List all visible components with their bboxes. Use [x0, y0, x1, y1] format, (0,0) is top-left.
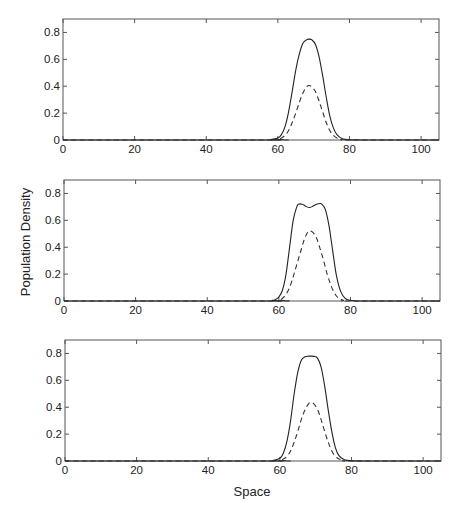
x-tick-label: 40	[200, 143, 213, 155]
y-axis-label: Population Density	[18, 187, 33, 296]
x-tick-label: 80	[344, 304, 357, 316]
x-tick-label: 20	[129, 304, 142, 316]
series-solid-line	[64, 203, 440, 301]
panel-3: 02040608010000.20.40.60.8	[46, 340, 441, 476]
x-axis-label: Space	[234, 484, 271, 499]
y-tick-label: 0.6	[45, 214, 61, 226]
plot-frame	[64, 180, 440, 301]
y-tick-label: 0.4	[44, 80, 61, 92]
x-tick-label: 20	[128, 143, 141, 155]
series-dashed-line	[63, 86, 439, 140]
y-tick-label: 0.8	[44, 26, 60, 38]
y-tick-label: 0.2	[44, 107, 60, 119]
x-tick-label: 60	[273, 464, 286, 476]
series-dashed-line	[64, 231, 440, 301]
series-solid-line	[63, 39, 439, 140]
x-tick-label: 40	[201, 304, 214, 316]
x-tick-label: 80	[343, 143, 356, 155]
y-tick-label: 0.8	[45, 187, 61, 199]
y-tick-label: 0	[55, 295, 61, 307]
x-tick-label: 100	[412, 143, 431, 155]
y-tick-label: 0.8	[46, 347, 62, 359]
x-tick-label: 60	[272, 304, 285, 316]
x-tick-label: 0	[61, 304, 67, 316]
y-tick-label: 0.2	[45, 268, 61, 280]
plot-frame	[63, 19, 439, 140]
x-tick-label: 100	[413, 304, 432, 316]
figure: 02040608010000.20.40.60.802040608010000.…	[0, 0, 458, 507]
y-tick-label: 0.4	[46, 401, 63, 413]
y-tick-label: 0.4	[45, 241, 62, 253]
x-tick-label: 0	[62, 464, 68, 476]
panels: 02040608010000.20.40.60.802040608010000.…	[44, 19, 441, 476]
x-tick-label: 100	[414, 464, 433, 476]
panel-1: 02040608010000.20.40.60.8	[44, 19, 439, 155]
y-tick-label: 0	[56, 455, 62, 467]
y-tick-label: 0.2	[46, 428, 62, 440]
panel-2: 02040608010000.20.40.60.8	[45, 180, 440, 316]
series-dashed-line	[65, 403, 441, 462]
series-solid-line	[65, 356, 441, 461]
x-tick-label: 20	[130, 464, 143, 476]
x-tick-label: 40	[202, 464, 215, 476]
plot-frame	[65, 340, 441, 461]
y-tick-label: 0.6	[46, 374, 62, 386]
y-tick-label: 0.6	[44, 53, 60, 65]
y-tick-label: 0	[54, 134, 60, 146]
x-tick-label: 80	[345, 464, 358, 476]
x-tick-label: 60	[271, 143, 284, 155]
x-tick-label: 0	[60, 143, 66, 155]
